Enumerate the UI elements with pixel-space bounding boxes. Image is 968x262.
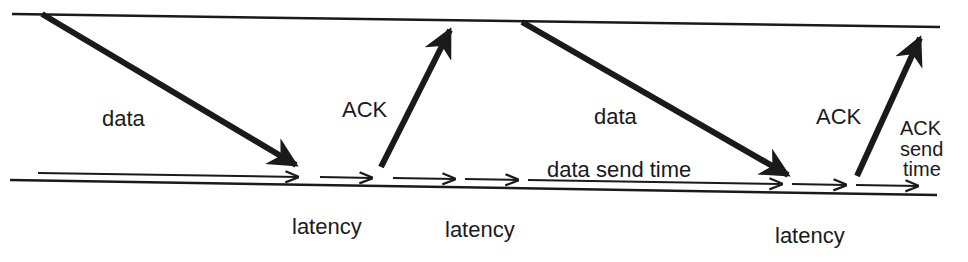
label-data-2: data xyxy=(594,104,638,129)
interval-latency-1 xyxy=(320,177,372,178)
label-ack-2: ACK xyxy=(816,104,862,129)
interval-ack-send-time-2 xyxy=(856,185,918,186)
latency-diagram: data ACK data ACK data send time ACK sen… xyxy=(0,0,968,262)
label-latency-2: latency xyxy=(445,217,515,242)
label-latency-1: latency xyxy=(292,214,362,239)
label-data-send-time: data send time xyxy=(547,157,691,182)
interval-latency-3 xyxy=(792,184,846,185)
ack-arrow-1 xyxy=(381,30,450,167)
label-ack-1: ACK xyxy=(342,97,388,122)
data-arrow-2 xyxy=(522,22,788,175)
label-ack-send-time-line1: ACK xyxy=(900,117,942,139)
interval-latency-2 xyxy=(465,179,518,180)
sender-timeline xyxy=(12,14,940,27)
interval-ack-send-time-1 xyxy=(393,178,455,179)
label-ack-send-time-line2: send xyxy=(900,138,943,160)
label-latency-3: latency xyxy=(775,223,845,248)
label-data-1: data xyxy=(102,106,146,131)
interval-data-send-time-1 xyxy=(38,173,298,177)
receiver-timeline xyxy=(10,180,937,195)
data-arrow-1 xyxy=(42,14,296,165)
label-ack-send-time-line3: time xyxy=(903,158,941,180)
